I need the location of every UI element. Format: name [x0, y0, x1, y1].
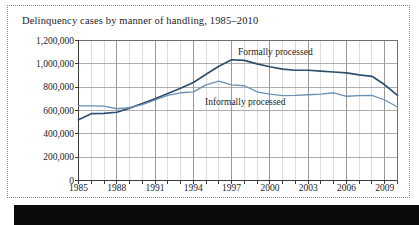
y-axis-tick-label: 800,000	[43, 82, 74, 92]
x-axis-tick-label: 1988	[107, 183, 126, 193]
x-axis-labels: 198519881991199419972000200320062009	[0, 183, 419, 199]
series-label-formally-processed: Formally processed	[238, 47, 313, 57]
series-label-informally-processed: Informally processed	[205, 97, 285, 107]
gridlines-major	[79, 41, 398, 181]
screenshot-page: Delinquency cases by manner of handling,…	[0, 0, 419, 225]
x-axis-tick-label: 1994	[184, 183, 203, 193]
x-axis-tick-label: 1997	[222, 183, 241, 193]
x-axis-tick-label: 2009	[375, 183, 394, 193]
line-chart: 0200,000400,000600,000800,0001,000,0001,…	[0, 0, 419, 225]
y-axis-tick-label: 1,200,000	[36, 36, 74, 46]
x-axis-tick-label: 2000	[260, 183, 279, 193]
axis-ticks	[75, 41, 398, 185]
x-axis-tick-label: 1991	[146, 183, 165, 193]
y-axis-tick-label: 200,000	[43, 152, 74, 162]
bottom-black-bar	[14, 205, 419, 225]
x-axis-tick-label: 1985	[69, 183, 88, 193]
y-axis-tick-label: 400,000	[43, 129, 74, 139]
x-axis-tick-label: 2006	[337, 183, 356, 193]
y-axis-tick-label: 1,000,000	[36, 59, 74, 69]
x-axis-tick-label: 2003	[299, 183, 318, 193]
y-axis-tick-label: 600,000	[43, 106, 74, 116]
